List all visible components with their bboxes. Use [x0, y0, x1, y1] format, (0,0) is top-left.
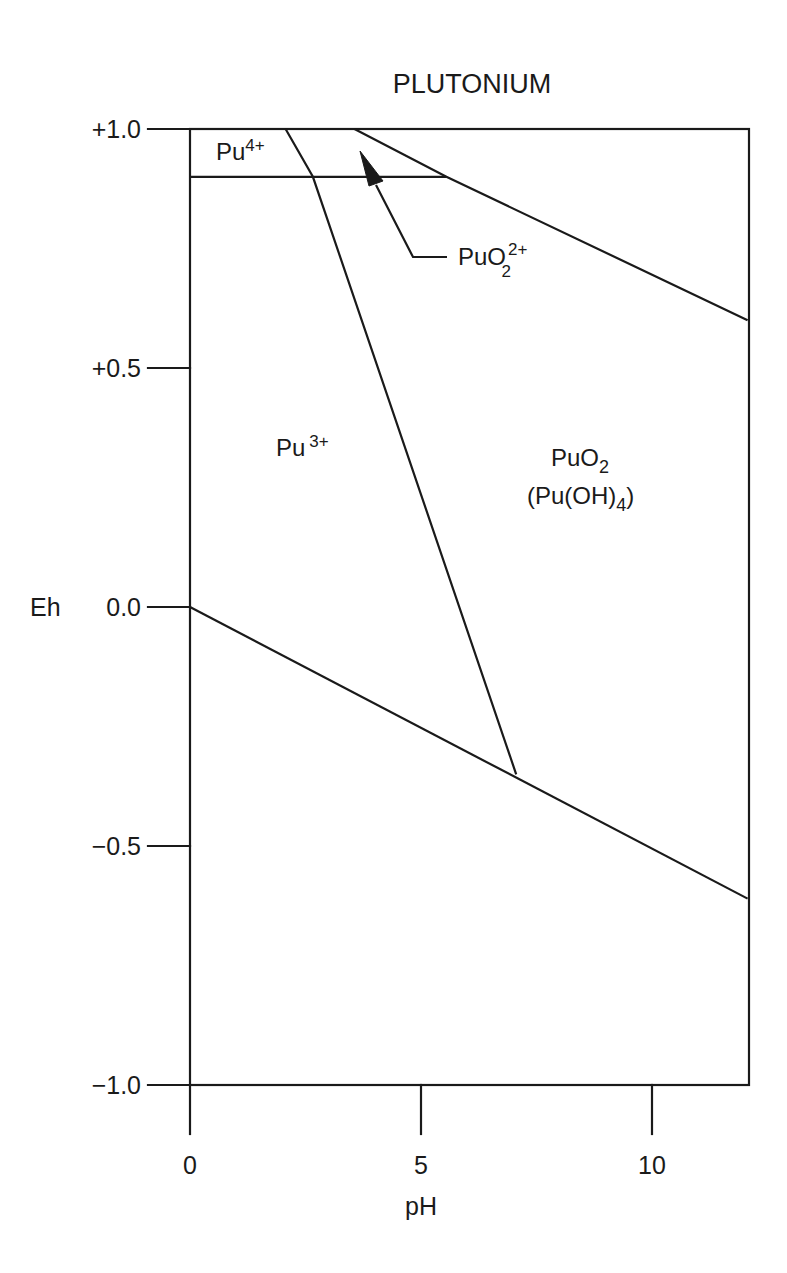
y-tick-label: −1.0 [92, 1071, 141, 1099]
y-axis-label: Eh [30, 593, 61, 621]
label-leader-line [376, 185, 447, 257]
x-axis-label: pH [405, 1192, 437, 1220]
y-tick-label: +0.5 [92, 354, 141, 382]
region-label-puo2-ion: PuO2+2 [458, 240, 527, 281]
x-tick-label: 5 [414, 1151, 428, 1179]
region-label-pu4: Pu4+ [216, 136, 265, 165]
y-tick-label: −0.5 [92, 832, 141, 860]
y-tick-label: +1.0 [92, 115, 141, 143]
x-tick-label: 0 [183, 1151, 197, 1179]
chart-title: PLUTONIUM [393, 69, 552, 99]
region-label-puoh4: (Pu(OH)4) [527, 482, 634, 515]
arrow-head-icon [360, 151, 383, 186]
region-label-puo2: PuO2 [551, 444, 609, 477]
puo2-ion-boundary [355, 129, 748, 320]
water-lower-limit [190, 607, 748, 899]
pourbaix-chart: PLUTONIUM+1.0+0.50.0−0.5−1.0Eh0510pHPu4+… [0, 0, 787, 1273]
x-tick-label: 10 [638, 1151, 666, 1179]
region-label-pu3: Pu3+ [276, 432, 329, 461]
pu-puo2-boundary [286, 129, 517, 774]
y-tick-label: 0.0 [106, 593, 141, 621]
plot-frame [190, 129, 749, 1085]
